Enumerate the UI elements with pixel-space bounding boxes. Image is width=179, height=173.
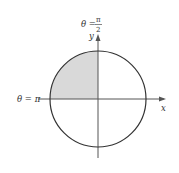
polar-diagram: θ = π 2 y x θ = π [0,0,179,173]
y-axis-label: y [88,31,94,41]
x-axis-arrow-icon [159,97,166,102]
theta-top-numerator: π [96,16,101,24]
theta-top-label: θ = [81,19,96,29]
shaded-region [50,51,98,99]
y-axis-arrow-icon [96,34,101,41]
theta-top-denominator: 2 [96,26,100,34]
theta-left-label: θ = π [17,94,41,104]
x-axis-label: x [161,103,166,113]
